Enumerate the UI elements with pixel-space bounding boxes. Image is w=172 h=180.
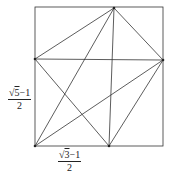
bottom-label-numerator: √3−1 xyxy=(58,150,81,162)
point-a xyxy=(34,145,37,148)
left-label-denominator: 2 xyxy=(17,100,22,111)
point-b xyxy=(108,145,111,148)
segment-apex-to-bottom xyxy=(109,8,114,146)
segment-horizontal xyxy=(35,59,163,60)
left-side-label: √5−1 2 xyxy=(8,88,31,111)
segment-left-to-apex xyxy=(35,8,114,59)
bottom-side-label: √3−1 2 xyxy=(58,150,81,173)
bottom-label-denominator: 2 xyxy=(67,162,72,173)
segment-apex-to-right xyxy=(114,8,163,60)
minus-one: −1 xyxy=(70,149,81,160)
point-d xyxy=(113,7,116,10)
point-e xyxy=(34,58,37,61)
segment-bottom-to-right xyxy=(109,60,163,146)
vertex-dots xyxy=(34,7,165,148)
segment-corner-to-right xyxy=(35,60,163,146)
point-c xyxy=(162,59,165,62)
outer-square xyxy=(35,7,163,146)
left-label-numerator: √5−1 xyxy=(8,88,31,100)
segment-corner-to-apex xyxy=(35,8,114,146)
segment-left-to-bottom xyxy=(35,59,109,146)
minus-one: −1 xyxy=(20,87,31,98)
segments xyxy=(35,8,163,146)
